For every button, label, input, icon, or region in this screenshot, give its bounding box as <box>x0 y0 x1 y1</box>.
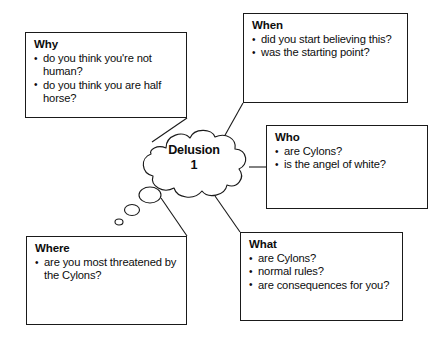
thought-dot-small <box>115 219 123 225</box>
question-box-why[interactable]: Why do you think you're not human? do yo… <box>25 32 187 118</box>
list-item: normal rules? <box>249 265 395 278</box>
thought-trail <box>112 186 172 230</box>
box-list-who: are Cylons? is the angel of white? <box>275 145 420 172</box>
question-box-when[interactable]: When did you start believing this? was t… <box>243 13 408 103</box>
question-box-who[interactable]: Who are Cylons? is the angel of white? <box>266 125 428 209</box>
list-item: are consequences for you? <box>249 279 395 292</box>
question-box-what[interactable]: What are Cylons? normal rules? are conse… <box>240 232 403 321</box>
box-list-when: did you start believing this? was the st… <box>252 33 400 60</box>
box-list-what: are Cylons? normal rules? are consequenc… <box>249 252 395 292</box>
box-title-what: What <box>249 238 395 252</box>
list-item: is the angel of white? <box>275 158 420 171</box>
list-item: are you most threatened by the Cylons? <box>35 256 179 283</box>
list-item: do you think you are half horse? <box>34 79 179 106</box>
list-item: did you start believing this? <box>252 33 400 46</box>
list-item: was the starting point? <box>252 46 400 59</box>
question-box-where[interactable]: Where are you most threatened by the Cyl… <box>26 236 187 325</box>
box-title-where: Where <box>35 242 179 256</box>
box-list-why: do you think you're not human? do you th… <box>34 52 179 105</box>
thought-dot-large <box>139 187 161 203</box>
box-title-why: Why <box>34 38 179 52</box>
list-item: do you think you're not human? <box>34 52 179 79</box>
thought-dot-medium <box>125 205 140 216</box>
diagram-canvas: Delusion 1 Why do you think you're not h… <box>0 0 446 338</box>
box-list-where: are you most threatened by the Cylons? <box>35 256 179 283</box>
box-title-when: When <box>252 19 400 33</box>
list-item: are Cylons? <box>249 252 395 265</box>
list-item: are Cylons? <box>275 145 420 158</box>
box-title-who: Who <box>275 131 420 145</box>
